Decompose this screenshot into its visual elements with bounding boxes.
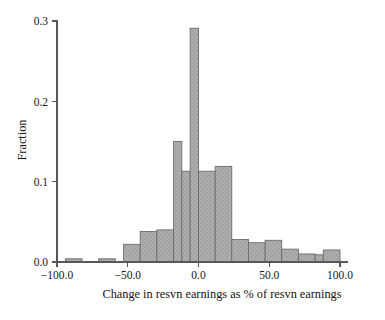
- histogram-bar: [323, 250, 340, 262]
- x-tick-label: −50.0: [114, 269, 141, 281]
- y-axis-title: Fraction: [15, 120, 29, 161]
- x-tick-label: −100.0: [41, 269, 74, 281]
- histogram-bar: [265, 240, 282, 262]
- histogram-plot: −100.0−50.00.050.0100.0 0.00.10.20.3 Cha…: [0, 0, 385, 320]
- x-axis-title: Change in resvn earnings as % of resvn e…: [102, 287, 341, 301]
- histogram-bar: [124, 244, 141, 262]
- y-tick-label: 0.1: [34, 176, 49, 188]
- x-tick-label: 50.0: [259, 269, 279, 281]
- histogram-bar: [140, 231, 157, 262]
- histogram-bar: [157, 230, 174, 262]
- histogram-bar: [215, 166, 232, 262]
- histogram-bar: [315, 255, 323, 262]
- y-axis-ticks: 0.00.10.20.3: [34, 15, 57, 268]
- histogram-bar: [282, 249, 299, 262]
- histogram-bars: [65, 28, 340, 262]
- histogram-bar: [232, 240, 249, 262]
- histogram-bar: [182, 171, 190, 262]
- y-tick-label: 0.3: [34, 15, 49, 27]
- histogram-bar: [174, 142, 182, 263]
- x-tick-label: 0.0: [191, 269, 206, 281]
- histogram-bar: [248, 243, 265, 262]
- histogram-bar: [199, 171, 216, 262]
- x-tick-label: 100.0: [327, 269, 353, 281]
- histogram-figure: −100.0−50.00.050.0100.0 0.00.10.20.3 Cha…: [0, 0, 385, 320]
- histogram-bar: [190, 28, 198, 262]
- y-tick-label: 0.2: [34, 96, 49, 108]
- y-tick-label: 0.0: [34, 256, 49, 268]
- x-axis-ticks: −100.0−50.00.050.0100.0: [41, 262, 353, 281]
- histogram-bar: [298, 254, 315, 262]
